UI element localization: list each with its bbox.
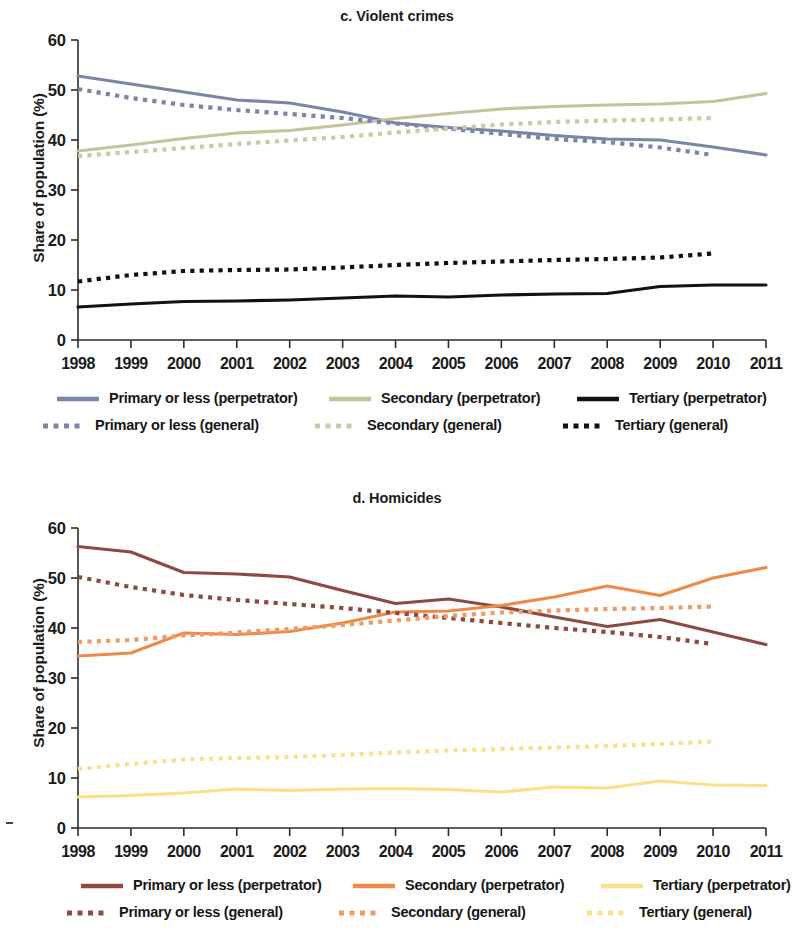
legend-homicides: Primary or less (perpetrator)Secondary (… [0, 865, 794, 925]
legend-item: Primary or less (general) [42, 417, 314, 433]
svg-text:2007: 2007 [538, 355, 572, 372]
legend-label: Tertiary (perpetrator) [629, 390, 767, 406]
svg-text:10: 10 [48, 769, 66, 787]
svg-text:2009: 2009 [643, 355, 677, 372]
legend-label: Primary or less (perpetrator) [133, 877, 322, 893]
series-line [78, 568, 766, 657]
legend-dotted-line-icon [66, 909, 110, 914]
svg-text:2001: 2001 [220, 355, 254, 372]
series-line [78, 285, 766, 307]
legend-label: Primary or less (perpetrator) [109, 390, 298, 406]
legend-dotted-line-icon [562, 422, 606, 427]
legend-row: Primary or less (perpetrator)Secondary (… [0, 384, 794, 411]
legend-row: Primary or less (general)Secondary (gene… [0, 411, 794, 438]
panel-homicides: d. Homicides Share of population (%) 010… [0, 470, 794, 935]
legend-row: Primary or less (perpetrator)Secondary (… [0, 871, 794, 898]
svg-text:40: 40 [48, 131, 66, 149]
legend-label: Tertiary (general) [615, 417, 728, 433]
legend-item: Secondary (general) [338, 904, 586, 920]
svg-text:2004: 2004 [379, 355, 413, 372]
chart-svg-violent-crimes: 0102030405060199819992000200120022003200… [0, 28, 794, 378]
legend-dotted-line-icon [586, 909, 630, 914]
y-axis-label-c: Share of population (%) [30, 63, 48, 293]
svg-text:10: 10 [48, 281, 66, 299]
legend-label: Tertiary (general) [639, 904, 752, 920]
svg-text:40: 40 [48, 619, 66, 637]
svg-text:2001: 2001 [220, 843, 254, 860]
svg-text:60: 60 [48, 31, 66, 49]
panel-violent-crimes: c. Violent crimes Share of population (%… [0, 0, 794, 470]
legend-solid-line-icon [576, 395, 620, 400]
svg-text:2003: 2003 [326, 355, 360, 372]
legend-solid-line-icon [600, 882, 644, 887]
panel-d-title: d. Homicides [0, 470, 794, 510]
svg-text:2006: 2006 [485, 843, 519, 860]
svg-text:50: 50 [48, 569, 66, 587]
series-line [78, 742, 713, 770]
svg-text:2011: 2011 [750, 355, 783, 372]
svg-text:1998: 1998 [61, 843, 95, 860]
svg-text:20: 20 [48, 719, 66, 737]
legend-item: Primary or less (perpetrator) [80, 877, 352, 893]
svg-text:2002: 2002 [273, 355, 307, 372]
svg-text:1998: 1998 [61, 355, 95, 372]
svg-text:2009: 2009 [643, 843, 677, 860]
svg-text:30: 30 [48, 669, 66, 687]
series-line [78, 781, 766, 797]
legend-item: Tertiary (perpetrator) [600, 877, 791, 893]
legend-item: Secondary (general) [314, 417, 562, 433]
svg-text:2005: 2005 [432, 843, 466, 860]
legend-solid-line-icon [328, 395, 372, 400]
svg-text:30: 30 [48, 181, 66, 199]
svg-text:2010: 2010 [696, 355, 730, 372]
svg-text:2008: 2008 [590, 843, 624, 860]
legend-item: Primary or less (perpetrator) [56, 390, 328, 406]
svg-text:2000: 2000 [167, 843, 201, 860]
legend-label: Secondary (perpetrator) [381, 390, 540, 406]
legend-label: Primary or less (general) [95, 417, 259, 433]
svg-text:1999: 1999 [114, 843, 148, 860]
panel-c-title: c. Violent crimes [0, 0, 794, 28]
series-line [78, 94, 766, 152]
svg-text:1999: 1999 [114, 355, 148, 372]
legend-label: Tertiary (perpetrator) [653, 877, 791, 893]
legend-item: Tertiary (general) [562, 417, 728, 433]
legend-solid-line-icon [352, 882, 396, 887]
legend-item: Tertiary (perpetrator) [576, 390, 767, 406]
svg-text:2005: 2005 [432, 355, 466, 372]
legend-dotted-line-icon [314, 422, 358, 427]
legend-row: Primary or less (general)Secondary (gene… [0, 898, 794, 925]
svg-text:20: 20 [48, 231, 66, 249]
legend-dotted-line-icon [338, 909, 382, 914]
legend-label: Secondary (general) [391, 904, 526, 920]
series-line [78, 254, 713, 282]
svg-text:2008: 2008 [590, 355, 624, 372]
legend-solid-line-icon [56, 395, 100, 400]
legend-item: Secondary (perpetrator) [352, 877, 600, 893]
legend-item: Tertiary (general) [586, 904, 752, 920]
svg-text:2000: 2000 [167, 355, 201, 372]
svg-text:2002: 2002 [273, 843, 307, 860]
legend-solid-line-icon [80, 882, 124, 887]
svg-text:2003: 2003 [326, 843, 360, 860]
y-axis-label-d: Share of population (%) [30, 548, 48, 778]
chart-svg-homicides: 0102030405060199819992000200120022003200… [0, 510, 794, 865]
legend-violent-crimes: Primary or less (perpetrator)Secondary (… [0, 378, 794, 438]
legend-item: Primary or less (general) [66, 904, 338, 920]
svg-text:2011: 2011 [750, 843, 783, 860]
svg-text:0: 0 [57, 819, 66, 837]
legend-dotted-line-icon [42, 422, 86, 427]
svg-text:2004: 2004 [379, 843, 413, 860]
plot-area-homicides: Share of population (%) 0102030405060199… [0, 510, 794, 865]
plot-area-violent-crimes: Share of population (%) 0102030405060199… [0, 28, 794, 378]
legend-label: Secondary (perpetrator) [405, 877, 564, 893]
svg-text:0: 0 [57, 331, 66, 349]
legend-label: Primary or less (general) [119, 904, 283, 920]
svg-text:2007: 2007 [538, 843, 572, 860]
svg-text:50: 50 [48, 81, 66, 99]
legend-item: Secondary (perpetrator) [328, 390, 576, 406]
stray-print-mark [6, 822, 13, 824]
svg-text:2006: 2006 [485, 355, 519, 372]
svg-text:60: 60 [48, 519, 66, 537]
svg-text:2010: 2010 [696, 843, 730, 860]
